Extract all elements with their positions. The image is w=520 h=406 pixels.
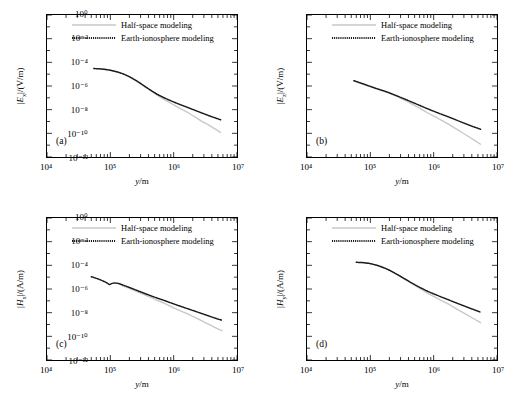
figure-panel-grid: Half-space modelingEarth-ionosphere mode… xyxy=(0,0,520,406)
x-tick-label: 10⁶ xyxy=(428,163,440,172)
y-tick-label: 10⁻⁸ xyxy=(71,106,88,115)
x-tick-label: 10⁶ xyxy=(168,366,180,375)
panel-letter: (b) xyxy=(316,136,327,146)
x-tick-label: 10⁴ xyxy=(300,163,312,172)
y-tick-label: 10⁰ xyxy=(75,10,88,19)
x-tick-label: 10⁴ xyxy=(40,163,52,172)
x-tick-label: 10⁵ xyxy=(104,366,116,375)
y-tick-label: 10⁻⁶ xyxy=(71,285,88,294)
x-axis-ticklabels: 10⁴10⁵10⁶10⁷ xyxy=(0,0,260,203)
x-tick-label: 10⁷ xyxy=(492,366,504,375)
x-tick-label: 10⁶ xyxy=(428,366,440,375)
y-tick-label: 10⁻¹⁰ xyxy=(67,130,88,139)
x-tick-label: 10⁷ xyxy=(232,366,244,375)
x-tick-label: 10⁴ xyxy=(40,366,52,375)
x-tick-label: 10⁴ xyxy=(300,366,312,375)
panel-letter: (d) xyxy=(316,339,327,349)
x-axis-label: y/m xyxy=(306,176,498,186)
x-axis-ticklabels: 10⁴10⁵10⁶10⁷ xyxy=(0,203,260,406)
y-tick-label: 10⁻⁶ xyxy=(71,82,88,91)
panel-letter: (c) xyxy=(56,339,67,349)
y-tick-label: 10⁻⁴ xyxy=(71,58,88,67)
y-tick-label: 10⁻⁴ xyxy=(71,261,88,270)
panel-c: Half-space modelingEarth-ionosphere mode… xyxy=(0,203,260,406)
panel-letter: (a) xyxy=(56,136,67,146)
x-tick-label: 10⁵ xyxy=(364,163,376,172)
panel-d: Half-space modelingEarth-ionosphere mode… xyxy=(260,203,520,406)
x-tick-label: 10⁶ xyxy=(168,163,180,172)
x-axis-ticklabels: 10⁴10⁵10⁶10⁷ xyxy=(260,203,520,406)
y-tick-label: 10⁻⁸ xyxy=(71,309,88,318)
y-tick-label: 10⁻¹⁰ xyxy=(67,333,88,342)
x-tick-label: 10⁵ xyxy=(364,366,376,375)
x-axis-label: y/m xyxy=(306,379,498,389)
panel-a: Half-space modelingEarth-ionosphere mode… xyxy=(0,0,260,203)
x-axis-ticklabels: 10⁴10⁵10⁶10⁷ xyxy=(260,0,520,203)
y-tick-label: 10⁻² xyxy=(71,34,88,43)
y-tick-label: 10⁻² xyxy=(71,237,88,246)
y-tick-label: 10⁻¹² xyxy=(69,154,88,163)
x-tick-label: 10⁷ xyxy=(232,163,244,172)
x-tick-label: 10⁵ xyxy=(104,163,116,172)
y-tick-label: 10⁰ xyxy=(75,213,88,222)
x-tick-label: 10⁷ xyxy=(492,163,504,172)
x-axis-label: y/m xyxy=(46,176,238,186)
y-tick-label: 10⁻¹² xyxy=(69,357,88,366)
panel-b: Half-space modelingEarth-ionosphere mode… xyxy=(260,0,520,203)
x-axis-label: y/m xyxy=(46,379,238,389)
